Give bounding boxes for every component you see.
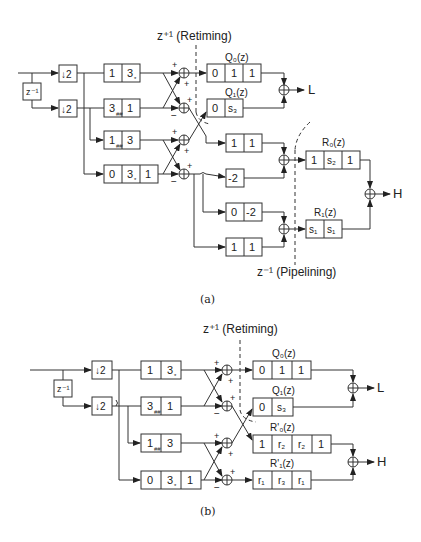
sign: + xyxy=(214,358,219,368)
sign: − xyxy=(171,110,177,121)
coef: r₂ xyxy=(298,439,305,450)
downsampler-label: ↓2 xyxy=(95,401,106,412)
coef: r₁ xyxy=(298,475,305,486)
filter-bank-diagram: z⁺¹ (Retiming) z⁻¹ ↓2 ↓2 1 3 * 3 ## 1 1 … xyxy=(0,0,421,542)
coef: 1 xyxy=(109,134,115,146)
coef: 1 xyxy=(127,102,133,114)
coef: 0 xyxy=(259,401,265,413)
coef: 0 xyxy=(259,364,265,376)
mark: ## xyxy=(154,409,161,415)
retiming-label-a: z⁺¹ (Retiming) xyxy=(157,29,232,43)
coef: -2 xyxy=(228,172,238,184)
output-L: L xyxy=(377,380,384,395)
r1-label: R₁(z) xyxy=(314,207,336,218)
coef: r₂ xyxy=(278,439,285,450)
coef: s₁ xyxy=(309,224,318,235)
coef: 0 xyxy=(109,168,115,180)
downsampler-label: ↓2 xyxy=(61,104,72,115)
pipelining-label: z⁻¹ (Pipelining) xyxy=(257,265,336,279)
coef: 1 xyxy=(147,437,153,449)
sign: − xyxy=(214,482,220,493)
mark: ## xyxy=(154,446,161,452)
coef: 3 xyxy=(109,102,115,114)
figure-b xyxy=(30,340,374,489)
sign: + xyxy=(184,146,189,156)
coef: 3 xyxy=(167,474,173,486)
q1-label: Q₁(z) xyxy=(225,87,248,98)
q1-label: Q₁(z) xyxy=(272,385,295,396)
coef: s₃ xyxy=(228,103,237,114)
coef: 1 xyxy=(109,67,115,79)
coef: 1 xyxy=(145,168,151,180)
mark: ## xyxy=(116,111,123,117)
q0-label: Q₀(z) xyxy=(225,52,249,63)
sign: + xyxy=(184,79,189,89)
coef: s₂ xyxy=(327,155,336,166)
q0-label: Q₀(z) xyxy=(272,348,296,359)
r0-label: R₀(z) xyxy=(322,137,345,148)
sign: + xyxy=(214,431,219,441)
coef: 1 xyxy=(249,67,255,79)
coef: 3 xyxy=(167,364,173,376)
mark: ## xyxy=(116,143,123,149)
coef: 0 xyxy=(212,102,218,114)
coef: 3 xyxy=(147,400,153,412)
sign: + xyxy=(172,60,177,70)
coef: 1 xyxy=(167,400,173,412)
coef: 3 xyxy=(167,437,173,449)
coef: 0 xyxy=(231,206,237,218)
coef: 1 xyxy=(318,438,324,450)
sign: − xyxy=(214,408,220,419)
sign: + xyxy=(228,376,233,386)
sign: + xyxy=(230,467,235,477)
coef: -2 xyxy=(246,206,256,218)
coef: 1 xyxy=(298,364,304,376)
coef: 1 xyxy=(347,154,353,166)
delay-label-b: z⁻¹ xyxy=(57,384,70,394)
coef: s₃ xyxy=(277,402,286,413)
coef: s₁ xyxy=(327,224,336,235)
sign: + xyxy=(187,95,192,105)
output-H: H xyxy=(377,454,386,469)
coef: r₃ xyxy=(278,475,285,486)
downsampler-label: ↓2 xyxy=(61,69,72,80)
caption-a: (a) xyxy=(200,293,215,306)
output-H: H xyxy=(393,186,402,201)
coef: 1 xyxy=(259,438,265,450)
coef: r₁ xyxy=(258,475,265,486)
coef: 1 xyxy=(311,154,317,166)
coef: 0 xyxy=(147,474,153,486)
sign: + xyxy=(172,127,177,137)
coef: 3 xyxy=(127,168,133,180)
coef: 1 xyxy=(249,241,255,253)
coef: 3 xyxy=(127,134,133,146)
r0p-label: R'₀(z) xyxy=(270,422,295,433)
coef: 0 xyxy=(212,67,218,79)
coef: 1 xyxy=(187,474,193,486)
output-L: L xyxy=(308,82,315,97)
coef: 3 xyxy=(127,67,133,79)
coef: 1 xyxy=(231,241,237,253)
sign: + xyxy=(228,449,233,459)
sign: + xyxy=(187,161,192,171)
sign: + xyxy=(230,393,235,403)
coef: 1 xyxy=(231,67,237,79)
caption-b: (b) xyxy=(200,505,216,518)
coef: 1 xyxy=(249,137,255,149)
delay-label-a: z⁻¹ xyxy=(26,87,39,97)
retiming-label-b: z⁺¹ (Retiming) xyxy=(203,322,278,336)
sign: − xyxy=(171,176,177,187)
coef: 1 xyxy=(147,364,153,376)
r1p-label: R'₁(z) xyxy=(270,458,294,469)
coef: 1 xyxy=(231,137,237,149)
coef: 1 xyxy=(279,364,285,376)
downsampler-label: ↓2 xyxy=(95,365,106,376)
